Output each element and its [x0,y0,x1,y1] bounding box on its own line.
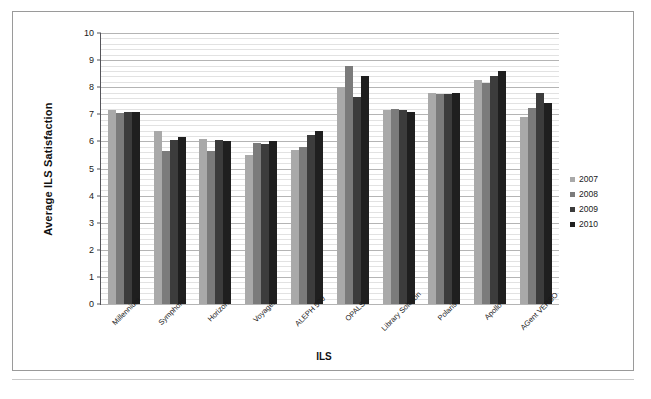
gridline-minor [101,60,559,61]
bar-group [101,33,147,304]
bar-2009[interactable] [353,97,361,304]
bar-2010[interactable] [498,71,506,304]
bar-2007[interactable] [291,150,299,304]
legend-label: 2010 [579,220,598,229]
bar-2007[interactable] [337,87,345,304]
bar-2009[interactable] [170,140,178,304]
gridline-major [101,33,559,34]
legend-item-2008[interactable]: 2008 [570,187,628,202]
bar-2007[interactable] [474,80,482,304]
bar-2007[interactable] [199,139,207,304]
y-tick-label: 2 [89,245,94,254]
y-tick-mark [97,304,101,305]
legend-item-2010[interactable]: 2010 [570,217,628,232]
bar-2008[interactable] [207,151,215,304]
y-tick-label: 1 [89,272,94,281]
bar-2007[interactable] [245,155,253,304]
bar-2008[interactable] [116,113,124,304]
bar-2009[interactable] [536,93,544,304]
caption-rule [12,379,634,380]
bar-2009[interactable] [261,144,269,304]
bar-2008[interactable] [391,109,399,304]
bar-2010[interactable] [361,76,369,304]
y-tick-mark [97,60,101,61]
bar-group [376,33,422,304]
y-tick-mark [97,33,101,34]
bar-2010[interactable] [315,131,323,304]
legend-swatch-icon [570,222,575,227]
gridline-major [101,304,559,305]
legend-label: 2009 [579,205,598,214]
bar-2009[interactable] [307,135,315,304]
gridline-minor [101,49,559,50]
bar-2007[interactable] [428,93,436,304]
bar-2008[interactable] [528,108,536,304]
y-tick-label: 8 [89,83,94,92]
gridline-minor [101,304,559,305]
gridline-minor [101,44,559,45]
gridline-minor [101,38,559,39]
bar-group [193,33,239,304]
y-axis-title-text: Average ILS Satisfaction [42,102,54,235]
bar-2010[interactable] [223,141,231,304]
bar-2010[interactable] [452,93,460,304]
bar-2009[interactable] [215,140,223,304]
bar-2010[interactable] [544,103,552,304]
bar-2010[interactable] [178,137,186,304]
bar-group [238,33,284,304]
y-tick-label: 6 [89,137,94,146]
bar-2008[interactable] [482,83,490,304]
y-tick-mark [97,276,101,277]
gridline-minor [101,66,559,67]
legend-label: 2008 [579,190,598,199]
bar-2007[interactable] [520,117,528,304]
y-tick-label: 4 [89,191,94,200]
bar-2009[interactable] [490,76,498,304]
legend-label: 2007 [579,175,598,184]
bar-2010[interactable] [269,141,277,304]
gridline-minor [101,33,559,34]
bar-2010[interactable] [132,112,140,304]
y-tick-label: 0 [89,300,94,309]
legend-swatch-icon [570,177,575,182]
plot-area: 012345678910 [100,33,559,305]
bar-2007[interactable] [154,131,162,304]
y-tick-mark [97,195,101,196]
bar-group [422,33,468,304]
bar-2008[interactable] [299,147,307,304]
bar-2010[interactable] [407,112,415,304]
y-tick-label: 7 [89,110,94,119]
bar-group [147,33,193,304]
bar-group [467,33,513,304]
gridline-minor [101,71,559,72]
legend-swatch-icon [570,192,575,197]
bar-2007[interactable] [108,110,116,304]
x-axis-title: ILS [13,351,635,362]
bar-group [513,33,559,304]
figure-root: Average ILS Satisfaction 012345678910 Mi… [0,0,651,399]
bar-2007[interactable] [383,110,391,304]
y-tick-mark [97,141,101,142]
bars-layer [101,33,559,304]
y-tick-mark [97,249,101,250]
legend-swatch-icon [570,207,575,212]
bar-2009[interactable] [124,112,132,304]
bar-2009[interactable] [444,94,452,304]
y-tick-label: 10 [84,29,94,38]
bar-2008[interactable] [162,151,170,304]
bar-2008[interactable] [345,66,353,304]
bar-2008[interactable] [253,143,261,304]
y-tick-mark [97,87,101,88]
legend: 2007200820092010 [570,172,628,232]
bar-group [284,33,330,304]
gridline-minor [101,55,559,56]
y-axis-title: Average ILS Satisfaction [39,33,57,305]
gridline-major [101,60,559,61]
legend-item-2007[interactable]: 2007 [570,172,628,187]
y-tick-label: 5 [89,164,94,173]
bar-2009[interactable] [399,110,407,304]
y-tick-mark [97,114,101,115]
y-tick-mark [97,222,101,223]
bar-2008[interactable] [436,94,444,304]
legend-item-2009[interactable]: 2009 [570,202,628,217]
